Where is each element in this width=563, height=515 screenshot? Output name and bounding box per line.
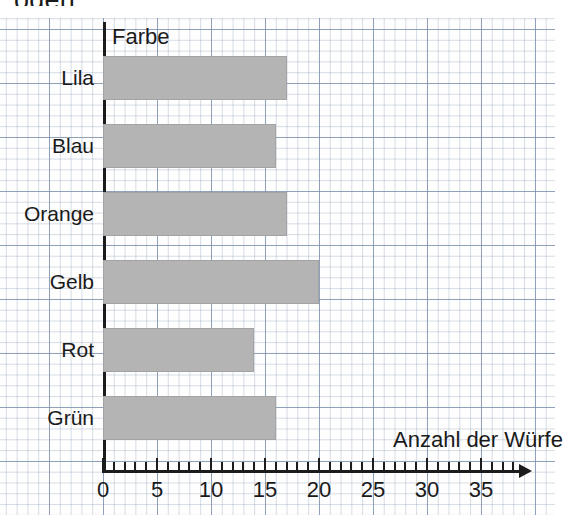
x-axis-minor-tick	[458, 462, 460, 473]
category-label: Grün	[47, 406, 94, 430]
x-axis-tick-label: 10	[199, 477, 223, 503]
bar-row: Blau	[103, 124, 276, 168]
x-axis-minor-tick	[253, 462, 255, 473]
x-axis-minor-tick	[404, 462, 406, 473]
x-axis-minor-tick	[361, 462, 363, 473]
x-axis-title: Anzahl der Würfe	[393, 427, 563, 453]
x-axis-major-tick	[102, 458, 104, 473]
x-axis-minor-tick	[394, 462, 396, 473]
x-axis-minor-tick	[145, 462, 147, 473]
x-axis-tick-label: 5	[151, 477, 163, 503]
x-axis-minor-tick	[448, 462, 450, 473]
x-axis-tick-label: 25	[361, 477, 385, 503]
x-axis-major-tick	[210, 458, 212, 473]
x-axis-minor-tick	[178, 462, 180, 473]
bar	[103, 328, 254, 372]
x-axis-minor-tick	[167, 462, 169, 473]
x-axis-minor-tick	[512, 462, 514, 473]
bar	[103, 396, 276, 440]
x-axis-minor-tick	[221, 462, 223, 473]
y-axis-title: Farbe	[112, 24, 169, 50]
x-axis-minor-tick	[502, 462, 504, 473]
x-axis-tick-label: 0	[97, 477, 109, 503]
x-axis-minor-tick	[437, 462, 439, 473]
x-axis-major-tick	[156, 458, 158, 473]
x-axis-minor-tick	[286, 462, 288, 473]
category-label: Rot	[61, 338, 94, 362]
x-axis-major-tick	[264, 458, 266, 473]
x-axis-minor-tick	[199, 462, 201, 473]
x-axis-major-tick	[426, 458, 428, 473]
x-axis-minor-tick	[232, 462, 234, 473]
bar	[103, 124, 276, 168]
x-axis-minor-tick	[383, 462, 385, 473]
x-axis-minor-tick	[242, 462, 244, 473]
bar-row: Lila	[103, 56, 287, 100]
x-axis-minor-tick	[329, 462, 331, 473]
x-axis-minor-tick	[415, 462, 417, 473]
bar	[103, 56, 287, 100]
category-label: Lila	[61, 66, 94, 90]
x-axis-minor-tick	[188, 462, 190, 473]
x-axis-minor-tick	[307, 462, 309, 473]
x-axis-minor-tick	[124, 462, 126, 473]
x-axis-tick-label: 35	[469, 477, 493, 503]
bar	[103, 260, 319, 304]
x-axis-tick-label: 30	[415, 477, 439, 503]
category-label: Blau	[52, 134, 94, 158]
x-axis-minor-tick	[113, 462, 115, 473]
category-label: Gelb	[50, 270, 94, 294]
category-label: Orange	[24, 202, 94, 226]
bar-row: Grün	[103, 396, 276, 440]
x-axis-arrow-icon	[519, 464, 532, 478]
x-axis-major-tick	[372, 458, 374, 473]
bar-row: Rot	[103, 328, 254, 372]
x-axis-minor-tick	[275, 462, 277, 473]
x-axis-minor-tick	[296, 462, 298, 473]
x-axis-line	[103, 470, 519, 473]
x-axis-major-tick	[318, 458, 320, 473]
x-axis-minor-tick	[491, 462, 493, 473]
x-axis-tick-label: 20	[307, 477, 331, 503]
bar-row: Gelb	[103, 260, 319, 304]
bar-row: Orange	[103, 192, 287, 236]
x-axis-minor-tick	[134, 462, 136, 473]
x-axis-tick-label: 15	[253, 477, 277, 503]
bar	[103, 192, 287, 236]
x-axis-major-tick	[480, 458, 482, 473]
x-axis-minor-tick	[340, 462, 342, 473]
x-axis-minor-tick	[469, 462, 471, 473]
x-axis-minor-tick	[350, 462, 352, 473]
